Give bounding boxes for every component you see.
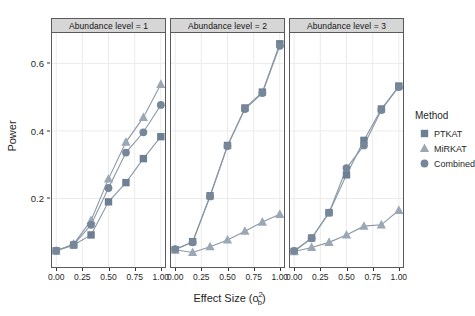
x-tick-mark [82, 268, 83, 271]
triangle-icon [418, 142, 431, 155]
x-tick-mark [161, 268, 162, 271]
x-tick-label: 0.25 [193, 272, 210, 282]
plot-canvas [171, 33, 284, 266]
plot-area [289, 33, 404, 268]
facet-panel: Abundance level = 20.000.250.500.751.00 [170, 18, 285, 286]
y-axis-ticks: 0.20.40.6 [18, 18, 50, 270]
facet-panels: Abundance level = 10.000.250.500.751.00A… [51, 18, 404, 286]
y-axis-title-text: Power [6, 120, 18, 151]
x-tick-label: 0.25 [74, 272, 91, 282]
legend-item-ptkat[interactable]: PTKAT [418, 126, 473, 141]
legend-title: Method [415, 110, 473, 121]
y-tick-mark [47, 198, 50, 199]
x-tick-mark [175, 268, 176, 271]
y-tick-mark [47, 63, 50, 64]
x-tick-mark [254, 268, 255, 271]
facet-panel: Abundance level = 30.000.250.500.751.00 [289, 18, 404, 286]
x-tick-mark [373, 268, 374, 271]
facet-strip-label: Abundance level = 1 [51, 18, 166, 33]
y-tick-label: 0.2 [31, 193, 44, 204]
x-axis-title-text: Effect Size (o2b) [193, 292, 265, 304]
x-tick-mark [280, 268, 281, 271]
x-tick-label: 0.75 [126, 272, 143, 282]
x-tick-label: 0.50 [100, 272, 117, 282]
x-tick-mark [347, 268, 348, 271]
x-tick-mark [109, 268, 110, 271]
plot-canvas [52, 33, 165, 266]
legend-item-label: PTKAT [434, 129, 462, 139]
x-tick-label: 0.75 [245, 272, 262, 282]
plot-area [170, 33, 285, 268]
legend-items: PTKATMiRKATCombined [415, 126, 473, 171]
x-axis-ticks: 0.000.250.500.751.00 [170, 268, 285, 286]
x-tick-mark [320, 268, 321, 271]
legend-item-label: MiRKAT [434, 144, 467, 154]
x-tick-label: 0.50 [338, 272, 355, 282]
facet-strip-label: Abundance level = 2 [170, 18, 285, 33]
facet-panel: Abundance level = 10.000.250.500.751.00 [51, 18, 166, 286]
legend-item-label: Combined [434, 159, 475, 169]
x-tick-mark [399, 268, 400, 271]
x-tick-mark [201, 268, 202, 271]
x-tick-label: 0.00 [167, 272, 184, 282]
plot-canvas [290, 33, 403, 266]
x-axis-ticks: 0.000.250.500.751.00 [289, 268, 404, 286]
y-tick-label: 0.6 [31, 58, 44, 69]
x-axis-title: Effect Size (o2b) [51, 290, 408, 307]
x-axis-ticks: 0.000.250.500.751.00 [51, 268, 166, 286]
y-tick-mark [47, 130, 50, 131]
x-tick-label: 0.00 [48, 272, 65, 282]
x-tick-mark [294, 268, 295, 271]
legend-item-combined[interactable]: Combined [418, 156, 473, 171]
gridlines [52, 33, 165, 266]
x-tick-label: 0.25 [312, 272, 329, 282]
x-tick-mark [228, 268, 229, 271]
circle-icon [418, 157, 431, 170]
plot-area [51, 33, 166, 268]
legend-item-mirkat[interactable]: MiRKAT [418, 141, 473, 156]
x-tick-mark [135, 268, 136, 271]
x-tick-label: 0.50 [219, 272, 236, 282]
x-tick-label: 0.75 [364, 272, 381, 282]
x-tick-mark [56, 268, 57, 271]
legend: Method PTKATMiRKATCombined [415, 110, 473, 171]
square-icon [418, 127, 431, 140]
facet-strip-label: Abundance level = 3 [289, 18, 404, 33]
x-tick-label: 1.00 [391, 272, 408, 282]
x-tick-label: 0.00 [286, 272, 303, 282]
y-tick-label: 0.4 [31, 125, 44, 136]
